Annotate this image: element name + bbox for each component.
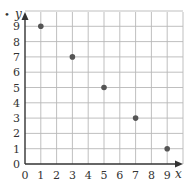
x-tick-label: 0 <box>22 169 29 182</box>
y-tick-label: 2 <box>13 127 20 140</box>
x-tick-label: 4 <box>85 169 92 182</box>
x-tick-label: 6 <box>116 169 123 182</box>
x-tick-label: 3 <box>69 169 76 182</box>
y-axis-label: y <box>14 7 22 21</box>
item-bullet: • <box>4 9 10 20</box>
x-tick-label: 5 <box>101 169 108 182</box>
y-tick-label: 1 <box>13 143 20 156</box>
y-tick-label: 3 <box>13 112 20 125</box>
scatter-chart: • 0123456789 0123456789 x y <box>0 0 193 186</box>
data-point <box>101 85 107 91</box>
x-tick-labels: 0123456789 <box>22 169 171 182</box>
x-tick-label: 2 <box>53 169 60 182</box>
data-point <box>38 24 44 30</box>
y-tick-label: 0 <box>13 158 20 171</box>
x-tick-label: 9 <box>164 169 171 182</box>
x-tick-label: 7 <box>132 169 139 182</box>
data-point <box>133 115 139 121</box>
y-tick-label: 7 <box>13 51 20 64</box>
data-point <box>70 54 76 60</box>
y-tick-label: 9 <box>13 20 20 33</box>
y-axis-arrow-icon <box>22 12 29 20</box>
x-axis-label: x <box>175 167 182 181</box>
axes <box>22 12 184 168</box>
y-tick-labels: 0123456789 <box>13 20 20 171</box>
x-tick-label: 1 <box>37 169 44 182</box>
x-tick-label: 8 <box>148 169 155 182</box>
y-tick-label: 4 <box>13 97 20 110</box>
y-tick-label: 8 <box>13 36 20 49</box>
y-tick-label: 5 <box>13 82 20 95</box>
data-point <box>164 146 170 152</box>
y-tick-label: 6 <box>13 66 20 79</box>
